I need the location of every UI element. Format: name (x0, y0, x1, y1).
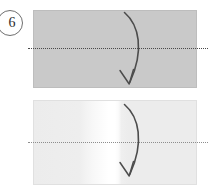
arrow-head (120, 162, 134, 177)
arrow-arc (125, 105, 139, 175)
lower-panel-fold-arrow (105, 100, 155, 185)
figure-canvas: 6 (0, 0, 212, 196)
arrow-head (120, 70, 134, 85)
step-badge-label: 6 (0, 10, 23, 36)
arrow-arc (125, 13, 139, 83)
upper-panel-fold-arrow (105, 8, 155, 93)
